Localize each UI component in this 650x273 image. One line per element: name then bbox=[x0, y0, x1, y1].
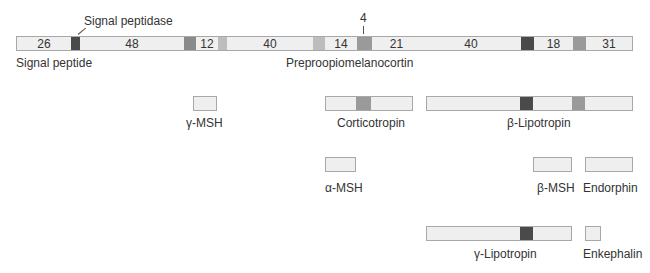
segment-26: 26 bbox=[17, 37, 71, 50]
segment-cleavage-5 bbox=[521, 37, 534, 50]
endorphin-box bbox=[585, 157, 633, 172]
segment-cleavage-2 bbox=[218, 37, 227, 50]
beta-lipotropin-cleavage-2 bbox=[572, 97, 585, 110]
beta-msh-label: β-MSH bbox=[537, 181, 575, 195]
signal-peptidase-label: Signal peptidase bbox=[84, 14, 173, 28]
signal-peptide-label: Signal peptide bbox=[16, 56, 92, 70]
preproopiomelanocortin-label: Preproopiomelanocortin bbox=[286, 56, 413, 70]
segment-cleavage-3 bbox=[313, 37, 325, 50]
segment-40a: 40 bbox=[227, 37, 313, 50]
beta-lipotropin-cleavage-1 bbox=[520, 97, 533, 110]
gamma-lipotropin-cleavage bbox=[520, 227, 533, 240]
segment-12: 12 bbox=[196, 37, 218, 50]
endorphin-label: Endorphin bbox=[583, 181, 638, 195]
gamma-lipotropin-box bbox=[426, 226, 572, 241]
enkephalin-label: Enkephalin bbox=[583, 247, 642, 261]
corticotropin-cleavage bbox=[356, 97, 371, 110]
segment-cleavage-6 bbox=[573, 37, 586, 50]
cleavage-tick bbox=[363, 26, 364, 34]
segment-18: 18 bbox=[534, 37, 573, 50]
segment-31: 31 bbox=[586, 37, 632, 50]
beta-msh-box bbox=[533, 157, 572, 172]
gamma-msh-box bbox=[193, 96, 217, 111]
alpha-msh-label: α-MSH bbox=[325, 181, 363, 195]
segment-21: 21 bbox=[372, 37, 421, 50]
signal-peptidase-leader bbox=[78, 28, 86, 35]
beta-lipotropin-label: β-Lipotropin bbox=[507, 116, 571, 130]
segment-cleavage-1 bbox=[184, 37, 196, 50]
corticotropin-label: Corticotropin bbox=[337, 116, 405, 130]
cleavage-length-label: 4 bbox=[360, 11, 367, 25]
segment-48: 48 bbox=[80, 37, 184, 50]
preproopiomelanocortin-bar: 26 48 12 40 14 21 40 18 31 bbox=[16, 36, 633, 51]
segment-cleavage-4 bbox=[357, 37, 372, 50]
segment-14: 14 bbox=[325, 37, 357, 50]
gamma-lipotropin-label: γ-Lipotropin bbox=[474, 247, 537, 261]
beta-lipotropin-box bbox=[426, 96, 633, 111]
corticotropin-box bbox=[325, 96, 413, 111]
segment-signal-peptidase-site bbox=[71, 37, 80, 50]
segment-40b: 40 bbox=[421, 37, 521, 50]
gamma-msh-label: γ-MSH bbox=[186, 116, 223, 130]
alpha-msh-box bbox=[325, 157, 356, 172]
enkephalin-box bbox=[585, 226, 601, 241]
